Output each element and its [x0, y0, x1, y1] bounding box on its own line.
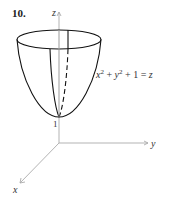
problem-number: 10. [12, 7, 26, 19]
surface-equation: x2 + y2 + 1 = z [95, 68, 153, 80]
x-axis-label: x [12, 184, 18, 195]
y-axis-label: y [150, 138, 156, 149]
x-axis [20, 143, 59, 183]
paraboloid-diagram: 10. z y x 1 x2 + y2 + 1 = z [0, 0, 169, 204]
vertex-label: 1 [53, 119, 58, 129]
back-trace-hidden [59, 49, 68, 117]
z-axis-label: z [51, 7, 56, 18]
front-trace [50, 49, 59, 117]
